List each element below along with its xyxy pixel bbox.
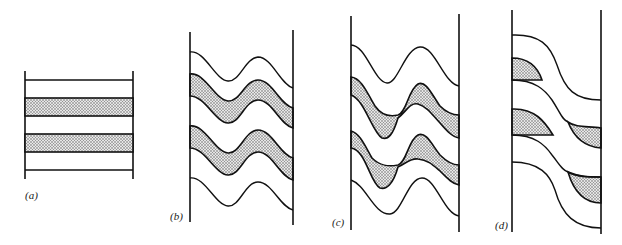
shaded-layer: [512, 58, 542, 80]
layer-boundary: [190, 178, 293, 210]
layer-boundary: [351, 45, 459, 86]
panel-c: [351, 14, 459, 232]
shaded-layer: [25, 98, 133, 116]
shaded-layer: [512, 109, 553, 135]
panel-b: [190, 30, 293, 225]
panel-label-a: (a): [25, 189, 38, 202]
panel-a: [25, 71, 133, 179]
panel-d: [512, 10, 601, 234]
shaded-layer: [190, 74, 293, 128]
shaded-layer: [190, 126, 293, 180]
shaded-layer: [351, 77, 459, 138]
panel-label-d: (d): [495, 219, 508, 232]
layer-boundary: [351, 178, 459, 216]
shaded-layer: [25, 134, 133, 152]
layer-deformation-diagram: (a) (b) (c) (d): [0, 0, 622, 245]
panel-label-c: (c): [332, 216, 345, 229]
shaded-layer: [351, 131, 459, 188]
panel-label-b: (b): [170, 210, 183, 223]
shaded-layer: [568, 122, 601, 148]
